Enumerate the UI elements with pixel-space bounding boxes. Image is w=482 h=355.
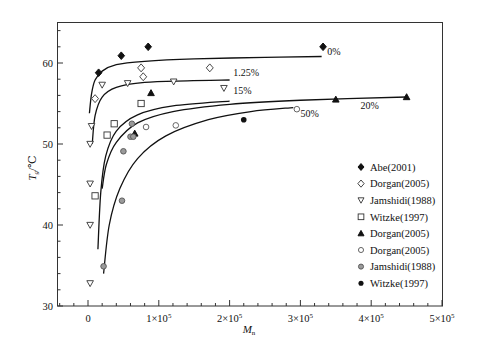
x-tick-label: 4×105: [359, 312, 385, 324]
diamond-filled-marker: [358, 164, 364, 171]
y-tick-label: 50: [43, 139, 54, 150]
x-tick-label: 5×105: [429, 312, 455, 324]
legend-item: Abe(2001): [358, 162, 416, 174]
x-axis-label: Mn: [242, 323, 256, 337]
triangle-down-open-marker: [99, 82, 106, 88]
circle-gray-marker: [129, 121, 135, 127]
circle-gray-marker: [119, 198, 125, 204]
triangle-up-filled-marker: [148, 90, 155, 96]
triangle-down-open-marker: [221, 85, 228, 91]
legend-item: Dorgan(2005): [358, 245, 429, 257]
legend-item: Witzke(1997): [358, 278, 428, 290]
square-open-marker: [104, 132, 110, 138]
square-open-marker: [92, 193, 98, 199]
diamond-filled-marker: [118, 52, 125, 60]
circle-gray-marker: [101, 264, 107, 270]
circle-open-marker: [173, 123, 179, 129]
legend: Abe(2001)Dorgan(2005)Jamshidi(1988)Witzk…: [358, 162, 436, 290]
square-open-marker: [358, 214, 364, 220]
circle-open-marker: [358, 247, 363, 252]
legend-item: Jamshidi(1988): [358, 261, 435, 273]
legend-label: Abe(2001): [370, 162, 416, 174]
diamond-open-marker: [206, 64, 213, 72]
x-tick-label: 0: [85, 313, 90, 324]
circle-open-marker: [143, 124, 149, 130]
triangle-up-filled-marker: [358, 230, 364, 235]
legend-item: Jamshidi(1988): [358, 195, 436, 207]
diamond-open-marker: [138, 64, 145, 72]
fit-curve: [92, 80, 229, 144]
legend-label: Witzke(1997): [370, 212, 428, 224]
x-tick-label: 2×105: [217, 312, 243, 324]
triangle-down-open-marker: [87, 181, 94, 187]
fit-curves: 0%1.25%15%20%50%: [89, 46, 406, 274]
curve-label: 0%: [327, 46, 340, 57]
triangle-down-open-marker: [358, 198, 364, 203]
svg-text:Mn: Mn: [242, 323, 256, 337]
circle-filled-marker: [358, 281, 363, 286]
circle-gray-marker: [358, 264, 363, 269]
legend-item: Dorgan(2005): [358, 178, 430, 190]
triangle-down-open-marker: [87, 222, 94, 228]
square-open-marker: [138, 100, 144, 106]
x-tick-label: 1×105: [146, 312, 172, 324]
diamond-open-marker: [140, 73, 147, 81]
y-tick-label: 30: [43, 301, 54, 312]
y-axis-label: Tg/℃: [26, 156, 40, 181]
y-axis-ticks: 30405060: [43, 31, 64, 312]
x-axis-ticks: 01×1052×1053×1054×1055×105: [60, 300, 455, 324]
y-tick-label: 40: [43, 220, 54, 231]
curve-label: 15%: [233, 85, 251, 96]
legend-label: Witzke(1997): [370, 278, 428, 290]
diamond-filled-marker: [145, 43, 152, 51]
legend-label: Jamshidi(1988): [370, 195, 436, 207]
square-open-marker: [111, 121, 117, 127]
glass-transition-chart: 01×1052×1053×1054×1055×105 30405060 0%1.…: [0, 0, 482, 355]
triangle-down-open-marker: [170, 79, 177, 85]
svg-text:Tg/℃: Tg/℃: [26, 156, 40, 181]
y-tick-label: 60: [43, 58, 54, 69]
triangle-down-open-marker: [87, 281, 94, 287]
diamond-filled-marker: [95, 69, 102, 77]
curve-label: 20%: [361, 100, 379, 111]
circle-open-marker: [294, 106, 300, 112]
fit-curve: [104, 108, 294, 274]
curve-label: 1.25%: [233, 67, 259, 78]
circle-gray-marker: [121, 148, 127, 154]
legend-label: Jamshidi(1988): [370, 261, 436, 273]
legend-label: Dorgan(2005): [370, 228, 430, 240]
circle-gray-marker: [131, 134, 137, 140]
x-tick-label: 3×105: [288, 312, 314, 324]
diamond-filled-marker: [320, 43, 327, 51]
legend-item: Witzke(1997): [358, 212, 428, 224]
legend-label: Dorgan(2005): [370, 245, 430, 257]
legend-item: Dorgan(2005): [358, 228, 430, 240]
diamond-open-marker: [358, 180, 364, 187]
circle-filled-marker: [241, 117, 247, 123]
diamond-open-marker: [92, 95, 99, 103]
legend-label: Dorgan(2005): [370, 178, 430, 190]
triangle-down-open-marker: [87, 141, 94, 147]
curve-label: 50%: [300, 108, 318, 119]
